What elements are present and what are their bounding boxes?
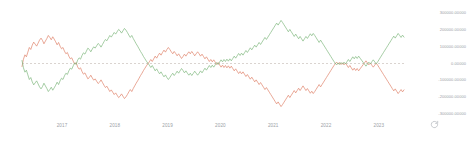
- x-axis-tick-label: 2022: [321, 123, 332, 128]
- refresh-icon[interactable]: [430, 120, 439, 129]
- x-axis-tick-label: 2021: [268, 123, 279, 128]
- x-axis-tick-label: 2020: [215, 123, 226, 128]
- x-axis-tick-label: 2019: [162, 123, 173, 128]
- x-axis-tick-label: 2023: [374, 123, 385, 128]
- chart-container: 300000.00000200000.00000100000.000000.00…: [0, 0, 470, 147]
- x-axis-labels: 2017201820192020202120222023: [0, 0, 470, 147]
- x-axis-tick-label: 2018: [110, 123, 121, 128]
- x-axis-tick-label: 2017: [57, 123, 68, 128]
